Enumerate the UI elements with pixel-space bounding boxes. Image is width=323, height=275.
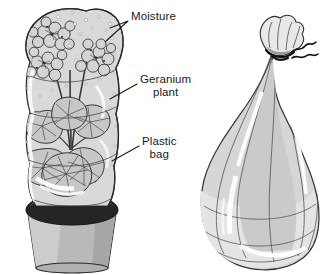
- label-geranium-plant: Geranium plant: [140, 73, 191, 98]
- label-plastic-bag: Plastic bag: [142, 135, 177, 160]
- label-plastic-line1: Plastic: [142, 135, 177, 148]
- label-moisture-line1: Moisture: [131, 10, 176, 22]
- label-geranium-line1: Geranium: [140, 73, 191, 86]
- right-illustration: [199, 15, 319, 270]
- label-geranium-line2: plant: [140, 86, 191, 99]
- left-illustration: [22, 6, 123, 273]
- label-plastic-line2: bag: [142, 148, 177, 161]
- figure-canvas: Moisture Geranium plant Plastic bag: [0, 0, 323, 275]
- label-moisture: Moisture: [131, 10, 176, 23]
